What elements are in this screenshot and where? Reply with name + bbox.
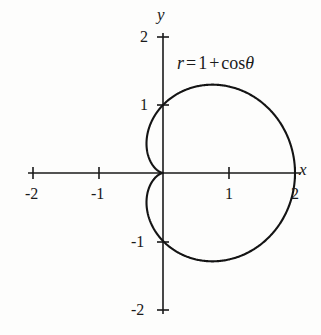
- equation-cos: cos: [221, 53, 245, 73]
- equation-equals: =: [184, 53, 198, 73]
- x-tick-label-pos2: 2: [291, 186, 299, 202]
- plot-canvas: [0, 0, 321, 335]
- y-tick-label-pos1: 1: [140, 97, 148, 113]
- x-tick-label-neg2: -2: [25, 186, 38, 202]
- x-axis-label: x: [299, 161, 307, 178]
- cardioid-figure: y x -2 -1 1 2 2 1 -1 -2 r=1+cosθ: [0, 0, 321, 335]
- equation-lhs: r: [177, 53, 184, 73]
- equation-annotation: r=1+cosθ: [177, 54, 254, 72]
- y-tick-label-neg1: -1: [131, 234, 144, 250]
- x-tick-label-neg1: -1: [91, 186, 104, 202]
- equation-theta: θ: [245, 53, 254, 73]
- y-axis-label: y: [157, 6, 165, 23]
- x-tick-label-pos1: 1: [225, 186, 233, 202]
- equation-plus: +: [207, 53, 221, 73]
- y-tick-label-pos2: 2: [140, 29, 148, 45]
- y-tick-label-neg2: -2: [131, 302, 144, 318]
- equation-one: 1: [198, 53, 207, 73]
